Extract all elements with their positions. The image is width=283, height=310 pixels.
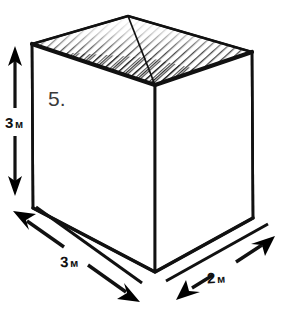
- depth-dimension-unit: м: [70, 257, 79, 269]
- width-dimension-value: 2: [207, 269, 216, 286]
- height-dimension-unit: м: [15, 118, 23, 130]
- height-label-group: 3 м: [5, 114, 23, 131]
- width-label-group: 2 м: [207, 268, 226, 286]
- depth-label-group: 3 м: [60, 253, 79, 271]
- box-diagram-svg: 5. 3 м 3 м 2 м: [0, 0, 283, 310]
- geometry-figure-container: 5. 3 м 3 м 2 м: [0, 0, 283, 310]
- width-arrowhead-upright: [251, 236, 275, 256]
- depth-dimension-value: 3: [60, 253, 69, 270]
- width-arrowhead-downleft: [176, 280, 200, 300]
- depth-arrowhead-upleft: [13, 211, 36, 230]
- box-right-vertical-edge: [252, 52, 253, 218]
- height-dimension-value: 3: [5, 114, 13, 131]
- problem-number-label: 5.: [48, 87, 66, 110]
- depth-arrowhead-downright: [117, 283, 140, 302]
- box-left-vertical-edge: [32, 44, 33, 208]
- width-dimension-unit: м: [217, 272, 226, 284]
